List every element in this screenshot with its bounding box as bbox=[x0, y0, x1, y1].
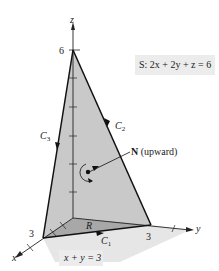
z-axis-label: z bbox=[70, 15, 74, 25]
c1-label: C1 bbox=[101, 236, 111, 248]
surface-equation: S: 2x + 2y + z = 6 bbox=[139, 60, 211, 70]
y-axis-label: y bbox=[196, 224, 200, 234]
c2-label: C2 bbox=[115, 121, 125, 133]
c3-label: C3 bbox=[40, 131, 50, 143]
region-label: R bbox=[86, 221, 92, 231]
normal-base-point bbox=[86, 170, 90, 174]
surface-equation-box: S: 2x + 2y + z = 6 bbox=[135, 55, 215, 75]
y-axis-arrowhead bbox=[186, 227, 194, 232]
z-intercept-label: 6 bbox=[59, 46, 64, 56]
x-intercept-label: 3 bbox=[29, 229, 34, 239]
region-equation-box: x + y = 3 bbox=[59, 250, 103, 266]
x-axis-label: x bbox=[12, 253, 16, 263]
y-intercept-label: 3 bbox=[146, 232, 151, 242]
normal-label: N (upward) bbox=[131, 147, 177, 157]
region-equation: x + y = 3 bbox=[64, 253, 101, 263]
surface-integral-diagram: z 6 3 x 3 y S: 2x + 2y + z = 6 C3 C2 C1 … bbox=[0, 0, 219, 271]
